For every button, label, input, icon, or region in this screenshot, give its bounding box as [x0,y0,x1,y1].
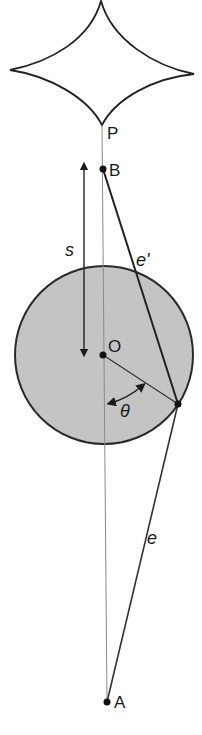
label-e: e [147,528,157,548]
label-e-prime: e' [136,250,150,270]
label-A: A [114,693,126,712]
line-e [107,404,178,702]
point-A [104,699,111,706]
label-B: B [109,161,120,180]
point-on-sphere [175,401,182,408]
point-O [100,352,107,359]
label-P: P [107,124,118,143]
diagram: P B s e' O θ e A [0,0,202,735]
point-B [100,166,107,173]
label-theta: θ [120,401,130,421]
label-s: s [65,240,74,260]
label-O: O [108,337,121,356]
astroid-caustic [10,1,194,125]
